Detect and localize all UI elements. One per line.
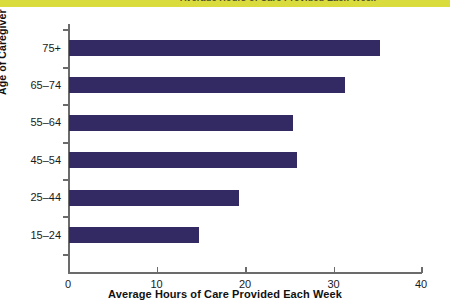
x-axis-tick — [68, 267, 70, 273]
y-axis-tick — [63, 67, 68, 69]
x-axis-tick — [157, 267, 159, 273]
y-tick-label-45-54: 45–54 — [30, 154, 61, 166]
y-axis-tick-labels: 75+ 65–74 55–64 45–54 25–44 15–24 — [0, 24, 61, 272]
y-axis-tick — [63, 179, 68, 181]
y-axis-tick — [63, 254, 68, 256]
x-axis-title: Average Hours of Care Provided Each Week — [0, 288, 450, 300]
bar-25-44 — [69, 190, 239, 206]
x-axis-tick — [421, 267, 423, 273]
y-tick-label-15-24: 15–24 — [30, 229, 61, 241]
y-axis-tick — [63, 29, 68, 31]
y-tick-label-55-64: 55–64 — [30, 116, 61, 128]
y-axis-tick — [63, 216, 68, 218]
plot-area: 0 10 20 30 40 — [68, 24, 422, 272]
bar-45-54 — [69, 152, 297, 168]
bar-65-74 — [69, 77, 345, 93]
chart-page: Average Hours of Care Provided Each Week… — [0, 0, 450, 308]
y-axis-tick — [63, 104, 68, 106]
top-yellow-banner: Average Hours of Care Provided Each Week — [0, 0, 450, 7]
x-axis-tick — [245, 267, 247, 273]
y-tick-label-75plus: 75+ — [42, 42, 61, 54]
y-axis-title: Age of Caregiver — [0, 9, 8, 95]
x-axis-tick — [334, 267, 336, 273]
clipped-heading-text: Average Hours of Care Provided Each Week — [180, 0, 430, 1]
bar-75plus — [69, 40, 380, 56]
bar-55-64 — [69, 115, 293, 131]
y-tick-label-25-44: 25–44 — [30, 191, 61, 203]
bar-chart: 75+ 65–74 55–64 45–54 25–44 15–24 Age of… — [0, 7, 450, 308]
y-axis-tick — [63, 142, 68, 144]
bar-15-24 — [69, 227, 199, 243]
y-tick-label-65-74: 65–74 — [30, 79, 61, 91]
